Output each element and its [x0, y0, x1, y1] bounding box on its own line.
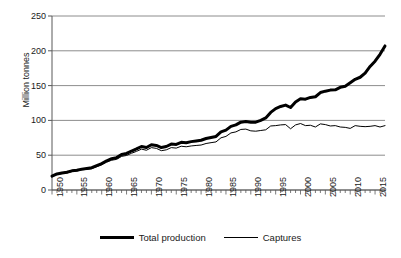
y-tick-label: 150 — [18, 81, 46, 91]
x-tick-label: 2000 — [304, 177, 313, 197]
x-tick-label: 1995 — [279, 177, 288, 197]
legend-item-total-production[interactable]: Total production — [100, 232, 206, 243]
y-tick-label: 0 — [18, 185, 46, 195]
legend-item-captures[interactable]: Captures — [224, 232, 302, 243]
chart-container: Million tonnes 050100150200250 195019551… — [0, 0, 401, 258]
x-tick-label: 2015 — [379, 177, 388, 197]
data-series-group — [52, 46, 385, 177]
x-tick-label: 1985 — [229, 177, 238, 197]
chart-legend: Total production Captures — [0, 232, 401, 243]
x-tick-label: 1960 — [105, 177, 114, 197]
legend-label: Total production — [139, 232, 206, 243]
legend-label: Captures — [263, 232, 302, 243]
x-tick-label: 1965 — [130, 177, 139, 197]
legend-line-icon — [100, 236, 134, 239]
y-tick-label: 250 — [18, 11, 46, 21]
legend-line-icon — [224, 237, 258, 238]
x-tick-label: 1975 — [180, 177, 189, 197]
x-tick-label: 1950 — [56, 177, 65, 197]
x-tick-label: 1970 — [155, 177, 164, 197]
plot-area — [0, 0, 401, 258]
y-tick-label: 100 — [18, 115, 46, 125]
y-tick-label: 200 — [18, 46, 46, 56]
y-tick-label: 50 — [18, 150, 46, 160]
x-tick-label: 1955 — [80, 177, 89, 197]
x-tick-label: 1980 — [205, 177, 214, 197]
x-tick-label: 1990 — [254, 177, 263, 197]
x-tick-label: 2010 — [354, 177, 363, 197]
x-tick-label: 2005 — [329, 177, 338, 197]
